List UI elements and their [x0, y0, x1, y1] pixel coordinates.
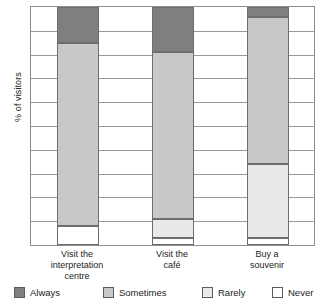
category-label-line: centre [27, 271, 127, 282]
category-label-1: Visit thecafé [122, 249, 222, 271]
bar-segment-sometimes [247, 17, 289, 165]
category-label-line: Visit the [122, 249, 222, 260]
legend-swatch-never-icon [272, 287, 283, 298]
bar-column [57, 7, 99, 245]
bar-segment-never [57, 226, 99, 245]
category-label-line: Visit the [27, 249, 127, 260]
category-label-2: Buy asouvenir [217, 249, 317, 271]
bar-column [152, 7, 194, 245]
legend-swatch-sometimes-icon [103, 287, 114, 298]
category-label-line: Buy a [217, 249, 317, 260]
legend-item-rarely[interactable]: Rarely [202, 287, 245, 298]
legend-item-sometimes[interactable]: Sometimes [103, 287, 167, 298]
y-axis-title: % of visitors [13, 37, 23, 157]
legend-label: Sometimes [119, 287, 167, 298]
category-axis-labels: Visit theinterpretationcentre Visit thec… [30, 249, 315, 285]
legend-swatch-always-icon [14, 287, 25, 298]
bar-segment-always [57, 7, 99, 43]
bar-segment-rarely [247, 164, 289, 238]
bar-segment-sometimes [152, 52, 194, 219]
stacked-bar-chart: % of visitors Visit theinterpretationcen… [0, 0, 322, 307]
category-label-line: café [122, 260, 222, 271]
bar-segment-always [152, 7, 194, 52]
bar-segment-never [152, 238, 194, 245]
legend: AlwaysSometimesRarelyNever [14, 287, 314, 303]
bar-segment-sometimes [57, 43, 99, 226]
legend-item-never[interactable]: Never [272, 287, 313, 298]
bar-column [247, 7, 289, 245]
bar-segment-rarely [152, 219, 194, 238]
plot-area [30, 6, 315, 246]
legend-label: Rarely [218, 287, 245, 298]
legend-item-always[interactable]: Always [14, 287, 60, 298]
legend-label: Never [288, 287, 313, 298]
category-label-0: Visit theinterpretationcentre [27, 249, 127, 282]
category-label-line: interpretation [27, 260, 127, 271]
legend-label: Always [30, 287, 60, 298]
bar-segment-never [247, 238, 289, 245]
category-label-line: souvenir [217, 260, 317, 271]
bar-segment-always [247, 7, 289, 17]
legend-swatch-rarely-icon [202, 287, 213, 298]
